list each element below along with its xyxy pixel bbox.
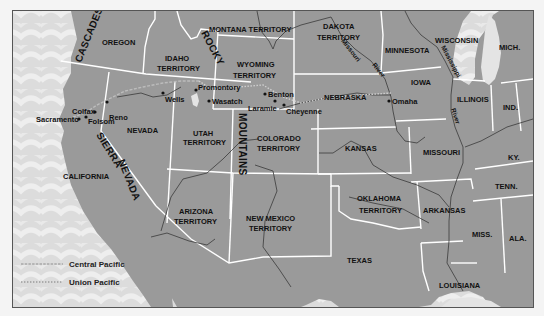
railroad-map: OREGON IDAHO TERRITORY MONTANA TERRITORY…: [13, 11, 533, 307]
label-michigan: MICH.: [499, 43, 520, 52]
label-colorado: COLORADO: [257, 134, 301, 143]
label-dakota: DAKOTA: [323, 22, 355, 31]
label-nebraska: NEBRASKA: [324, 93, 367, 102]
label-wisconsin: WISCONSIN: [435, 36, 478, 45]
label-laramie: Laramie: [248, 104, 277, 113]
label-kentucky: KY.: [508, 153, 520, 162]
label-mississippi: MISS.: [472, 230, 492, 239]
label-oklahoma-2: TERRITORY: [359, 206, 402, 215]
label-tennessee: TENN.: [495, 182, 518, 191]
label-wells: Wells: [165, 95, 184, 104]
label-idaho: IDAHO: [165, 54, 189, 63]
legend-union-pacific-label: Union Pacific: [69, 278, 120, 287]
label-oregon: OREGON: [102, 38, 135, 47]
laramie-dot: [273, 99, 276, 102]
label-illinois: ILLINOIS: [457, 95, 489, 104]
label-louisiana: LOUISIANA: [439, 281, 481, 290]
label-montana: MONTANA TERRITORY: [209, 25, 292, 34]
label-kansas: KANSAS: [345, 144, 377, 153]
label-nevada: NEVADA: [127, 126, 159, 135]
reno-dot: [105, 100, 108, 103]
label-sacramento: Sacramento: [36, 115, 79, 124]
label-alabama: ALA.: [509, 234, 527, 243]
label-texas: TEXAS: [347, 256, 372, 265]
omaha-dot: [387, 99, 390, 102]
label-dakota-2: TERRITORY: [317, 33, 360, 42]
label-benton: Benton: [268, 90, 294, 99]
label-missouri: MISSOURI: [423, 148, 460, 157]
label-colorado-2: TERRITORY: [257, 144, 300, 153]
label-arkansas: ARKANSAS: [423, 206, 466, 215]
label-minnesota: MINNESOTA: [385, 46, 430, 55]
label-wyoming: WYOMING: [237, 60, 275, 69]
label-california: CALIFORNIA: [63, 172, 110, 181]
label-mountains: MOUNTAINS: [237, 113, 248, 176]
label-reno: Reno: [109, 113, 128, 122]
label-new-mexico-2: TERRITORY: [249, 224, 292, 233]
label-cheyenne: Cheyenne: [286, 107, 322, 116]
benton-dot: [263, 92, 266, 95]
legend-central-pacific-label: Central Pacific: [69, 260, 125, 269]
label-iowa: IOWA: [411, 78, 432, 87]
label-arizona-2: TERRITORY: [174, 217, 217, 226]
label-oklahoma: OKLAHOMA: [357, 194, 402, 203]
map-frame: OREGON IDAHO TERRITORY MONTANA TERRITORY…: [12, 10, 534, 308]
label-omaha: Omaha: [392, 97, 418, 106]
label-wyoming-2: TERRITORY: [233, 71, 276, 80]
label-new-mexico: NEW MEXICO: [246, 214, 295, 223]
label-promontory: Promontory: [198, 83, 241, 92]
label-utah-2: TERRITORY: [183, 138, 226, 147]
label-wasatch: Wasatch: [212, 97, 243, 106]
label-colfax: Colfax: [72, 107, 96, 116]
label-arizona: ARIZONA: [179, 207, 214, 216]
label-idaho-2: TERRITORY: [157, 64, 200, 73]
label-utah: UTAH: [193, 129, 213, 138]
label-indiana: IND.: [503, 103, 518, 112]
wasatch-dot: [207, 99, 210, 102]
